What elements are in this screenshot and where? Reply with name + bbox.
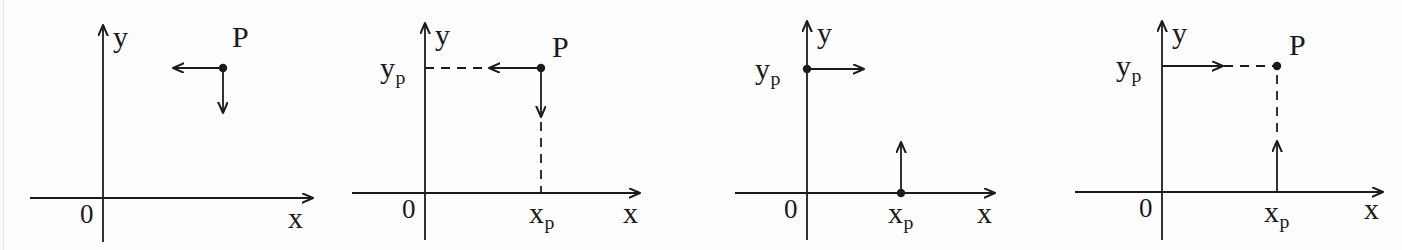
panel-2: y x 0 P yp xp <box>340 0 700 250</box>
x-axis-label: x <box>288 203 303 233</box>
y-tick-label: yp <box>1116 51 1141 81</box>
panel-4: y x 0 P yp xp <box>1050 0 1402 250</box>
panel-2-graphic <box>340 0 700 250</box>
point-p-marker <box>1273 62 1281 70</box>
x-tick-label: xp <box>888 198 913 228</box>
panel-1: y x 0 P <box>0 0 340 250</box>
y-axis-label: y <box>113 22 128 52</box>
figure-canvas: y x 0 P y x 0 <box>0 0 1402 250</box>
x-tick-label: xp <box>1264 197 1289 227</box>
origin-label: 0 <box>80 201 94 228</box>
x-tick-label: xp <box>529 198 554 228</box>
point-p-marker <box>219 64 227 72</box>
x-axis-label: x <box>1364 194 1379 224</box>
y-axis-label: y <box>817 18 832 48</box>
point-p-label: P <box>232 22 249 52</box>
origin-label: 0 <box>402 196 416 223</box>
y-axis-label: y <box>1172 18 1187 48</box>
panel-4-graphic <box>1050 0 1402 250</box>
x-axis-label: x <box>623 198 638 228</box>
x-axis-label: x <box>977 198 992 228</box>
point-p-label: P <box>552 32 569 62</box>
origin-label: 0 <box>1139 195 1153 222</box>
point-p-marker <box>537 64 545 72</box>
origin-label: 0 <box>784 196 798 223</box>
y-value-marker <box>803 65 811 73</box>
y-axis-label: y <box>435 20 450 50</box>
panel-3-graphic <box>700 0 1050 250</box>
point-p-label: P <box>1289 30 1306 60</box>
y-tick-label: yp <box>380 53 405 83</box>
panel-3: y x 0 yp xp <box>700 0 1050 250</box>
y-tick-label: yp <box>755 54 780 84</box>
